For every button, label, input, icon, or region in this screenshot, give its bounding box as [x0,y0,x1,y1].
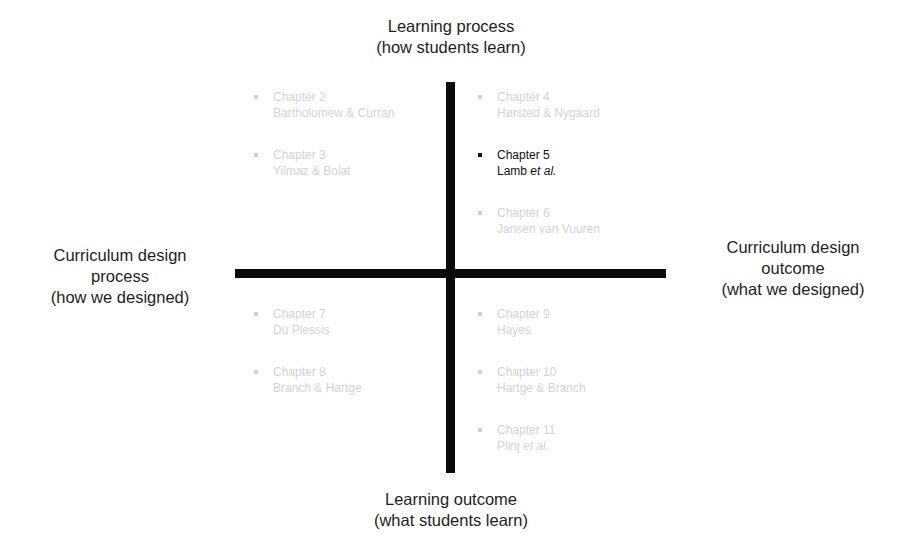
bullet-icon [478,211,482,215]
chapter-item: Chapter 10Hartge & Branch [478,365,586,396]
chapter-item: Chapter 9Hayes [478,307,586,338]
authors-text: Du Plessis [273,323,330,337]
bullet-icon [254,95,258,99]
bullet-icon [478,370,482,374]
chapter-authors: Pilnj et al. [497,439,586,455]
bullet-icon [478,312,482,316]
chapter-authors: Bartholomew & Curran [273,106,394,122]
chapter-authors: Lamb et al. [497,164,600,180]
authors-text: Bartholomew & Curran [273,106,394,120]
authors-text: Lamb [497,164,530,178]
chapter-number: Chapter 9 [497,307,586,323]
chapter-number: Chapter 5 [497,148,600,164]
vertical-axis [446,82,455,473]
chapter-item: Chapter 7Du Plessis [254,307,362,338]
chapter-number: Chapter 11 [497,423,586,439]
chapter-item: Chapter 4Hørsted & Nygaard [478,90,600,121]
bullet-icon [478,153,482,157]
quadrant-bottom-left: Chapter 7Du PlessisChapter 8Branch & Har… [254,307,362,423]
chapter-authors: Hartge & Branch [497,381,586,397]
axis-label-line: process [20,266,220,287]
bullet-icon [478,95,482,99]
chapter-authors: Yilmaz & Bolat [273,164,394,180]
authors-text: Hartge & Branch [497,381,586,395]
chapter-number: Chapter 3 [273,148,394,164]
chapter-number: Chapter 6 [497,206,600,222]
authors-italic: et al. [530,164,556,178]
axis-label-line: Learning process [340,16,562,37]
authors-text: Jansen van Vuuren [497,222,600,236]
axis-label-line: (what we designed) [688,279,898,300]
chapter-authors: Jansen van Vuuren [497,222,600,238]
axis-label-line: Curriculum design [20,245,220,266]
chapter-number: Chapter 8 [273,365,362,381]
bullet-icon [478,428,482,432]
axis-label-learning-process: Learning process (how students learn) [340,16,562,58]
bullet-icon [254,153,258,157]
chapter-item: Chapter 6Jansen van Vuuren [478,206,600,237]
chapter-number: Chapter 10 [497,365,586,381]
axis-label-learning-outcome: Learning outcome (what students learn) [340,489,562,531]
axis-label-line: (what students learn) [340,510,562,531]
authors-text: Pilnj [497,439,523,453]
axis-label-line: (how we designed) [20,287,220,308]
chapter-authors: Hørsted & Nygaard [497,106,600,122]
axis-label-line: Curriculum design [688,237,898,258]
chapter-item: Chapter 2Bartholomew & Curran [254,90,394,121]
axis-label-line: outcome [688,258,898,279]
authors-text: Yilmaz & Bolat [273,164,351,178]
bullet-icon [254,370,258,374]
chapter-authors: Branch & Hartge [273,381,362,397]
chapter-item: Chapter 8Branch & Hartge [254,365,362,396]
quadrant-bottom-right: Chapter 9HayesChapter 10Hartge & BranchC… [478,307,586,481]
bullet-icon [254,312,258,316]
chapter-item: Chapter 5Lamb et al. [478,148,600,179]
authors-text: Branch & Hartge [273,381,362,395]
quadrant-top-left: Chapter 2Bartholomew & CurranChapter 3Yi… [254,90,394,206]
chapter-authors: Du Plessis [273,323,362,339]
axis-label-line: (how students learn) [340,37,562,58]
chapter-number: Chapter 2 [273,90,394,106]
axis-label-design-process: Curriculum design process (how we design… [20,245,220,308]
authors-italic: et al. [523,439,549,453]
chapter-number: Chapter 4 [497,90,600,106]
authors-text: Hørsted & Nygaard [497,106,600,120]
axis-label-design-outcome: Curriculum design outcome (what we desig… [688,237,898,300]
chapter-item: Chapter 3Yilmaz & Bolat [254,148,394,179]
authors-text: Hayes [497,323,531,337]
axis-label-line: Learning outcome [340,489,562,510]
quadrant-top-right: Chapter 4Hørsted & NygaardChapter 5Lamb … [478,90,600,264]
chapter-authors: Hayes [497,323,586,339]
chapter-item: Chapter 11Pilnj et al. [478,423,586,454]
chapter-number: Chapter 7 [273,307,362,323]
